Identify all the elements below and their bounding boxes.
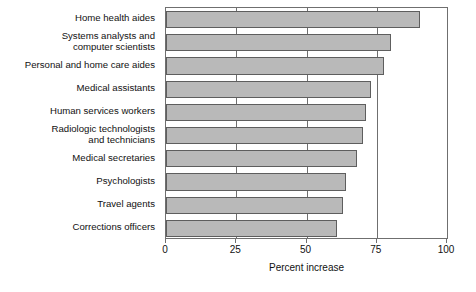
bar bbox=[166, 104, 366, 121]
bar bbox=[166, 11, 420, 28]
x-tick-mark bbox=[306, 239, 307, 243]
x-tick-label: 50 bbox=[300, 244, 311, 255]
bar bbox=[166, 57, 384, 74]
x-tick-mark bbox=[446, 239, 447, 243]
category-label: Medical assistants bbox=[0, 83, 155, 94]
bar bbox=[166, 34, 391, 51]
bar bbox=[166, 220, 337, 237]
category-label: Psychologists bbox=[0, 176, 155, 187]
x-tick-label: 100 bbox=[438, 244, 455, 255]
x-axis-title: Percent increase bbox=[165, 262, 448, 273]
bar bbox=[166, 127, 363, 144]
x-tick-mark bbox=[165, 239, 166, 243]
category-label: Medical secretaries bbox=[0, 153, 155, 164]
bar bbox=[166, 173, 346, 190]
plot-area bbox=[165, 7, 448, 239]
bar bbox=[166, 81, 371, 98]
bar-chart: Home health aidesSystems analysts and co… bbox=[0, 0, 476, 292]
category-label: Corrections officers bbox=[0, 222, 155, 233]
category-label: Radiologic technologists and technicians bbox=[0, 124, 155, 145]
x-tick-mark bbox=[376, 239, 377, 243]
x-tick-label: 25 bbox=[230, 244, 241, 255]
x-tick-label: 75 bbox=[370, 244, 381, 255]
bar bbox=[166, 150, 357, 167]
bar bbox=[166, 197, 343, 214]
category-label: Systems analysts and computer scientists bbox=[0, 31, 155, 52]
category-axis: Home health aidesSystems analysts and co… bbox=[0, 7, 160, 239]
category-label: Travel agents bbox=[0, 199, 155, 210]
category-label: Home health aides bbox=[0, 13, 155, 24]
x-tick-mark bbox=[235, 239, 236, 243]
category-label: Personal and home care aides bbox=[0, 60, 155, 71]
x-tick-label: 0 bbox=[162, 244, 168, 255]
category-label: Human services workers bbox=[0, 106, 155, 117]
